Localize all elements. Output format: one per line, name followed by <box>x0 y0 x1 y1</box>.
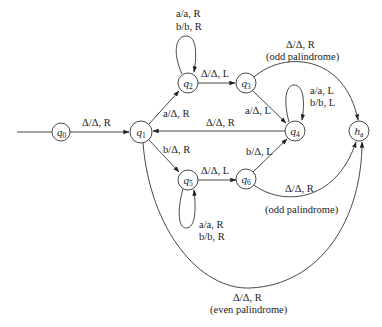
turing-machine-diagram: q0 q1 q2 q3 q4 q5 q6 ha Δ/Δ, R a/Δ, R b/… <box>0 0 382 327</box>
label-q1-q2: a/Δ, R <box>163 108 190 119</box>
state-q6: q6 <box>236 169 256 189</box>
label-q4-loop-2: b/b, L <box>310 97 335 108</box>
label-q1-q5: b/Δ, R <box>163 144 190 155</box>
label-q5-loop-2: b/b, R <box>199 231 225 242</box>
label-q3-ha-1: Δ/Δ, R <box>286 39 315 50</box>
state-ha: ha <box>349 121 369 141</box>
label-q3-q4: a/Δ, L <box>245 105 271 116</box>
edge-labels: Δ/Δ, R a/Δ, R b/Δ, R a/a, R b/b, R Δ/Δ, … <box>82 8 340 316</box>
label-q2-q3: Δ/Δ, L <box>201 68 229 79</box>
label-q6-ha-1: Δ/Δ, R <box>285 183 314 194</box>
label-q4-loop-1: a/a, L <box>310 85 334 96</box>
label-q5-q6: Δ/Δ, L <box>201 165 229 176</box>
label-q4-q1: Δ/Δ, R <box>206 117 235 128</box>
label-q0-q1: Δ/Δ, R <box>82 117 111 128</box>
label-q6-ha-2: (odd palindrome) <box>265 204 339 216</box>
label-q6-q4: b/Δ, L <box>246 146 273 157</box>
state-q3: q3 <box>236 73 256 93</box>
edge-q2-loop <box>176 36 195 74</box>
state-q2: q2 <box>178 73 198 93</box>
label-q5-loop-1: a/a, R <box>199 219 224 230</box>
label-q3-ha-2: (odd palindrome) <box>266 51 340 63</box>
label-q2-loop-1: a/a, R <box>176 8 201 19</box>
state-q1: q1 <box>130 121 152 143</box>
label-q2-loop-2: b/b, R <box>176 21 202 32</box>
edge-q4-loop <box>286 85 304 122</box>
state-q4: q4 <box>285 121 305 141</box>
state-q0: q0 <box>52 123 70 141</box>
label-q1-ha-2: (even palindrome) <box>210 304 288 316</box>
edge-q1-ha <box>143 142 362 288</box>
state-q5: q5 <box>178 170 198 190</box>
label-q1-ha-1: Δ/Δ, R <box>233 292 262 303</box>
edge-q5-loop <box>179 189 195 228</box>
